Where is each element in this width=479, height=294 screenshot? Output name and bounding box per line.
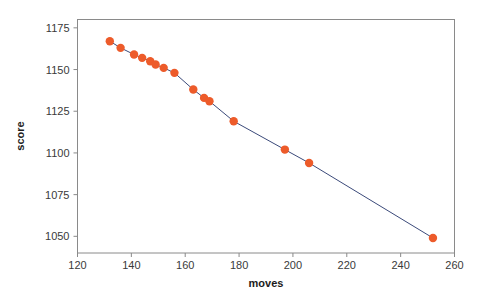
x-tick-label: 180 (230, 259, 248, 271)
x-tick-label: 160 (176, 259, 194, 271)
y-tick-label: 1125 (46, 105, 70, 117)
x-tick-label: 120 (68, 259, 86, 271)
y-axis-title: score (14, 121, 26, 150)
x-tick-label: 140 (122, 259, 140, 271)
scatter-plot: 120140160180200220240260 105010751100112… (0, 0, 479, 294)
x-tick-label: 260 (445, 259, 463, 271)
data-point-marker (138, 54, 146, 62)
data-point-marker (151, 60, 159, 68)
y-tick-label: 1150 (46, 64, 70, 76)
data-point-marker (429, 234, 437, 242)
y-tick-label: 1075 (45, 189, 69, 201)
x-tick-label: 240 (391, 259, 409, 271)
x-axis-title: moves (249, 277, 284, 289)
data-point-marker (130, 50, 138, 58)
data-point-marker (305, 159, 313, 167)
data-point-marker (205, 97, 213, 105)
data-point-marker (229, 117, 237, 125)
data-point-marker (281, 145, 289, 153)
data-point-marker (189, 85, 197, 93)
data-point-marker (159, 64, 167, 72)
data-point-marker (106, 37, 114, 45)
data-point-marker (116, 44, 124, 52)
y-tick-label: 1050 (45, 230, 69, 242)
data-point-marker (170, 69, 178, 77)
y-tick-label: 1175 (46, 22, 70, 34)
figure-background (0, 0, 479, 294)
y-tick-label: 1100 (46, 147, 70, 159)
chart-figure: 120140160180200220240260 105010751100112… (0, 0, 479, 294)
x-tick-label: 220 (338, 259, 356, 271)
x-tick-label: 200 (284, 259, 302, 271)
